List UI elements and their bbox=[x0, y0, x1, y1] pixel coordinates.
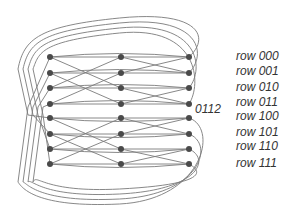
node-stage-0-row-2 bbox=[47, 85, 53, 91]
node-stage-1-row-4 bbox=[118, 115, 124, 121]
node-stage-2-row-3 bbox=[186, 101, 192, 107]
node-stage-2-row-6 bbox=[186, 146, 192, 152]
row-label: row 110 bbox=[236, 140, 278, 152]
annotation-label: 0112 bbox=[195, 103, 221, 115]
node-stage-0-row-7 bbox=[47, 161, 53, 167]
node-stage-2-row-0 bbox=[186, 54, 192, 60]
node-stage-1-row-5 bbox=[118, 131, 124, 137]
node-stage-2-row-4 bbox=[186, 115, 192, 121]
node-stage-2-row-5 bbox=[186, 131, 192, 137]
row-label: row 010 bbox=[236, 81, 279, 93]
node-stage-0-row-4 bbox=[47, 115, 53, 121]
row-label: row 000 bbox=[236, 50, 279, 62]
row-label: row 101 bbox=[236, 126, 279, 138]
row-label: row 111 bbox=[236, 157, 277, 169]
node-stage-0-row-0 bbox=[47, 54, 53, 60]
node-stage-2-row-1 bbox=[186, 70, 192, 76]
row-label: row 001 bbox=[236, 65, 279, 77]
node-stage-1-row-1 bbox=[118, 70, 124, 76]
node-stage-1-row-0 bbox=[118, 54, 124, 60]
row-label: row 011 bbox=[236, 96, 278, 108]
node-stage-1-row-6 bbox=[118, 146, 124, 152]
node-stage-1-row-3 bbox=[118, 101, 124, 107]
node-stage-2-row-7 bbox=[186, 161, 192, 167]
node-stage-0-row-5 bbox=[47, 131, 53, 137]
node-stage-1-row-7 bbox=[118, 161, 124, 167]
wraparound-edges bbox=[18, 17, 203, 205]
row-label: row 100 bbox=[236, 110, 279, 122]
node-stage-0-row-1 bbox=[47, 70, 53, 76]
node-stage-0-row-3 bbox=[47, 101, 53, 107]
node-stage-1-row-2 bbox=[118, 85, 124, 91]
node-stage-2-row-2 bbox=[186, 85, 192, 91]
wraparound-edge-top bbox=[33, 32, 195, 164]
node-stage-0-row-6 bbox=[47, 146, 53, 152]
